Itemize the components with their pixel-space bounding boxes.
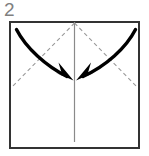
- fold-diagram-svg: [0, 0, 149, 156]
- origami-step-diagram: 2: [0, 0, 149, 156]
